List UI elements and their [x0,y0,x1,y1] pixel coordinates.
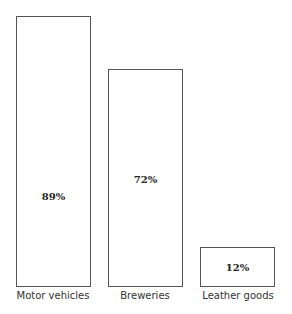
bar-breweries: 72% [108,69,183,287]
category-label: Motor vehicles [3,290,103,301]
bar-value-label: 12% [201,262,274,273]
bar-leather-goods: 12% [200,247,275,287]
bar-value-label: 89% [17,191,90,202]
category-label: Leather goods [188,290,288,301]
bar-motor-vehicles: 89% [16,16,91,287]
bar-value-label: 72% [109,174,182,185]
category-label: Breweries [95,290,195,301]
